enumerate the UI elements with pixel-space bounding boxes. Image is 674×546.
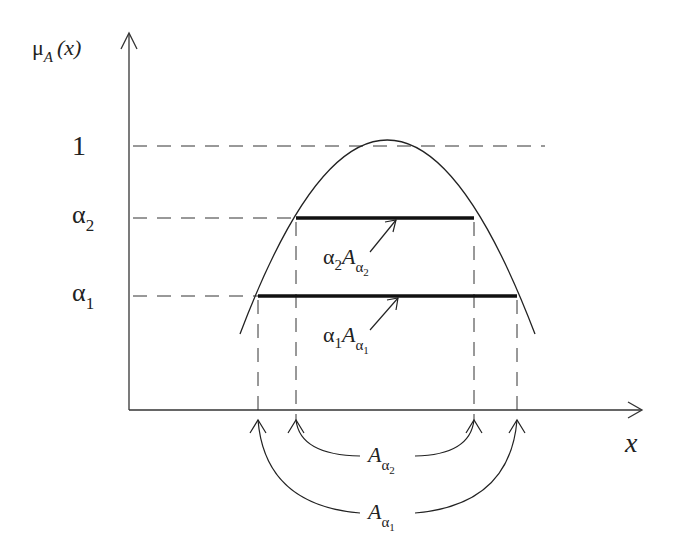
projection-lines xyxy=(258,222,517,420)
x-axis xyxy=(129,402,642,418)
alpha2-interval-label: Aα2 xyxy=(366,442,395,476)
x-axis-label: x xyxy=(624,427,638,458)
alpha-cut-diagram: μA(x) 1 α2 α1 α2Aα2 α1Aα1 Aα2 Aα1 x xyxy=(0,0,674,546)
alpha1-interval-label: Aα1 xyxy=(366,499,395,533)
level-label-alpha2: α2 xyxy=(72,200,94,235)
pointer-arrows xyxy=(370,220,398,330)
level-label-alpha1: α1 xyxy=(72,278,94,313)
y-axis-label: μA(x) xyxy=(32,35,81,65)
level-label-1: 1 xyxy=(72,130,86,161)
membership-curve xyxy=(240,140,535,334)
y-axis xyxy=(121,33,137,410)
alpha1-cut-label: α1Aα1 xyxy=(323,322,369,356)
alpha2-cut-label: α2Aα2 xyxy=(323,244,369,278)
